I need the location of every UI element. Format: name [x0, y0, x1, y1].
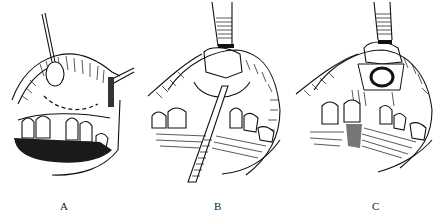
panel-label-a: A	[60, 200, 68, 212]
panel-b-illustration	[146, 0, 292, 217]
panel-label-b: B	[214, 200, 221, 212]
panel-a-illustration	[0, 0, 146, 217]
panel-label-c: C	[372, 200, 379, 212]
panel-b: B	[146, 0, 292, 217]
panel-a: A	[0, 0, 146, 217]
panel-c: C	[292, 0, 438, 217]
panel-c-illustration	[292, 0, 438, 217]
